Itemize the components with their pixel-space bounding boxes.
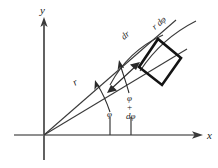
radial-rays-group bbox=[44, 20, 187, 135]
y-axis-label: y bbox=[39, 4, 45, 16]
angle-inner-label: φ bbox=[107, 109, 112, 119]
angle-outer-label-stack: φ + dφ bbox=[126, 93, 136, 121]
dr-measure-arrow bbox=[107, 62, 140, 93]
inner-radial-ray bbox=[44, 49, 187, 135]
angle-outer-label-dphi: dφ bbox=[126, 111, 136, 121]
angle-markers-group bbox=[94, 60, 131, 135]
radial-side-label: dr bbox=[119, 28, 132, 41]
figure-canvas: y x r dr r dφ φ φ + dφ bbox=[0, 0, 218, 168]
angle-inner-leader bbox=[97, 84, 110, 112]
axes-group bbox=[14, 17, 203, 160]
polar-area-element-figure: y x r dr r dφ φ φ + dφ bbox=[0, 0, 218, 168]
radius-label: r bbox=[70, 76, 79, 87]
x-axis-label: x bbox=[206, 129, 212, 141]
